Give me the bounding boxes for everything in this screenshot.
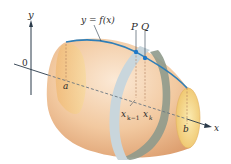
x-prev-label: x [121,109,126,119]
curve-label: y = f(x) [80,15,115,25]
point-q [143,56,147,60]
a-label: a [63,81,68,91]
y-axis-label: y [27,9,34,20]
origin-label: 0 [22,58,28,68]
x-k-label: x [143,109,148,119]
p-label: P [130,21,138,32]
x-prev-subscript: k−1 [127,114,139,121]
y-axis [29,20,33,95]
point-p [134,50,138,54]
surface-of-revolution-diagram: y 0 y = f(x) P Q a x k−1 x k b x [0,0,231,164]
x-k-subscript: k [149,114,153,121]
right-end-cap [176,88,200,148]
q-label: Q [141,21,149,32]
b-label: b [183,124,189,134]
x-axis-label: x [214,123,219,133]
diagram-canvas: y 0 y = f(x) P Q a x k−1 x k b x [0,0,231,164]
